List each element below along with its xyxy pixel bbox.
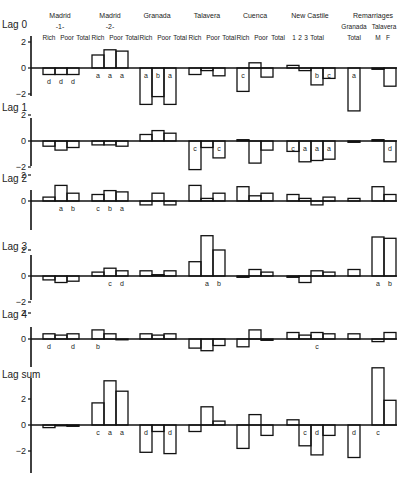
col-label: Poor [109, 34, 124, 41]
group-sub-granada: Granada [341, 23, 367, 30]
significance-label: a [108, 72, 112, 79]
bar [201, 236, 213, 276]
bar [104, 141, 116, 145]
bar [372, 368, 384, 425]
bar [287, 333, 299, 340]
significance-label: a [108, 429, 112, 436]
col-label: 2 [298, 34, 302, 41]
bar [261, 272, 273, 276]
bar [323, 197, 335, 201]
significance-label: c [241, 72, 245, 79]
col-label: Rich [188, 34, 201, 41]
bar [67, 334, 79, 339]
group-header-2: Granada [143, 12, 170, 19]
bar [237, 276, 249, 277]
significance-label: d [168, 429, 172, 436]
col-label: Poor [60, 34, 75, 41]
col-label: M [375, 34, 380, 41]
bar [116, 51, 128, 68]
col-label: Total [222, 34, 236, 41]
bar [372, 140, 384, 141]
bar [55, 425, 67, 426]
bar [116, 192, 128, 201]
bar [201, 339, 213, 351]
y-tick-label: 0 [21, 334, 26, 344]
panel-lag-1: Lag 120−2cccaaad [2, 102, 397, 172]
group-sub-1: -2- [106, 23, 115, 30]
col-label: Poor [206, 34, 221, 41]
bar [372, 68, 384, 69]
bar [287, 276, 299, 277]
y-tick-label: 0 [21, 271, 26, 281]
bar [189, 339, 201, 348]
col-label: Total [310, 34, 324, 41]
col-label: Total [173, 34, 187, 41]
y-tick-label: 2 [21, 394, 26, 404]
bar [43, 197, 55, 201]
bar [55, 68, 67, 75]
bar [67, 425, 79, 426]
bar [164, 201, 176, 205]
panel-lag-3: Lag 320−2cdabab [2, 236, 397, 307]
bar [299, 68, 311, 71]
bar [92, 195, 104, 202]
significance-label: a [120, 429, 124, 436]
significance-label: a [205, 280, 209, 287]
group-header-1: Madrid [99, 12, 121, 19]
bar [384, 195, 396, 202]
col-label: Rich [236, 34, 249, 41]
col-label: Rich [139, 34, 152, 41]
bar [201, 141, 213, 148]
bar [164, 334, 176, 339]
y-tick-label: 0 [21, 63, 26, 73]
bar [261, 193, 273, 201]
significance-label: d [71, 343, 75, 350]
significance-label: d [47, 78, 51, 85]
y-tick-label: 0 [21, 136, 26, 146]
bar [43, 68, 55, 75]
bar [249, 415, 261, 425]
bar [299, 335, 311, 339]
significance-label: b [96, 343, 100, 350]
significance-label: a [303, 145, 307, 152]
bar [92, 55, 104, 68]
significance-label: d [144, 429, 148, 436]
bar [116, 271, 128, 276]
significance-label: a [376, 280, 380, 287]
bar [323, 334, 335, 339]
panel-lag-0: Lag 020−2dddaaaabacbca [2, 19, 397, 111]
col-label: 3 [304, 34, 308, 41]
bar [261, 141, 273, 150]
group-header-remarriages: Remarriages [353, 12, 394, 20]
bar [140, 135, 152, 142]
significance-label: a [168, 72, 172, 79]
bar [372, 187, 384, 201]
bar [55, 276, 67, 283]
bar [213, 193, 225, 201]
significance-label: a [120, 205, 124, 212]
bar [92, 272, 104, 276]
bar [213, 250, 225, 276]
significance-label: d [120, 280, 124, 287]
significance-label: c [96, 205, 100, 212]
bar [152, 275, 164, 276]
bar [104, 381, 116, 425]
bar [348, 198, 360, 201]
bar [92, 141, 104, 145]
bar [237, 339, 249, 347]
bar [287, 420, 299, 425]
significance-label: d [71, 78, 75, 85]
bar [55, 141, 67, 150]
panel-title: Lag sum [2, 369, 40, 380]
bar [116, 391, 128, 425]
lag-bar-chart: Madrid-1-RichPoorTotalMadrid-2-RichPoorT… [0, 0, 411, 481]
bar [249, 196, 261, 201]
bar [299, 198, 311, 201]
bar [261, 425, 273, 435]
significance-label: a [352, 72, 356, 79]
bar [249, 141, 261, 163]
significance-label: d [315, 429, 319, 436]
y-tick-label: 2 [21, 37, 26, 47]
col-label: Total [271, 34, 285, 41]
bar [116, 141, 128, 146]
